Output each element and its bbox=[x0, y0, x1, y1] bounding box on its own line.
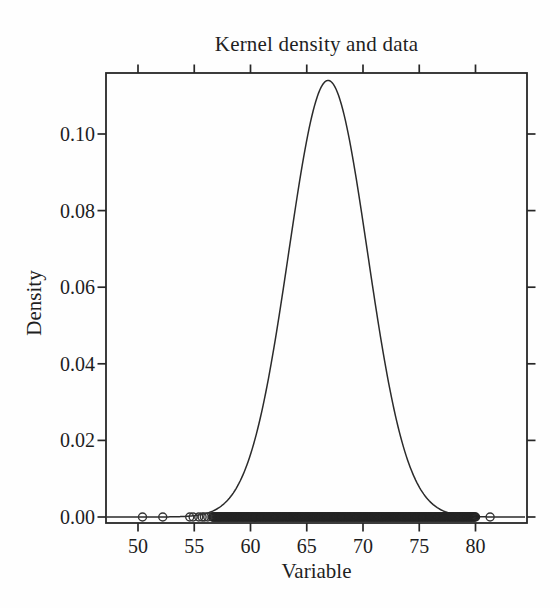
y-tick-label: 0.10 bbox=[60, 123, 95, 145]
y-tick-label: 0.00 bbox=[60, 506, 95, 528]
plot-frame bbox=[106, 73, 527, 523]
y-tick-label: 0.04 bbox=[60, 353, 95, 375]
x-tick-label: 70 bbox=[353, 535, 373, 557]
x-tick-label: 55 bbox=[184, 535, 204, 557]
x-tick-label: 60 bbox=[241, 535, 261, 557]
x-tick-label: 80 bbox=[466, 535, 486, 557]
y-tick-label: 0.06 bbox=[60, 276, 95, 298]
y-tick-label: 0.02 bbox=[60, 429, 95, 451]
x-axis-label: Variable bbox=[106, 559, 527, 584]
kernel-density-figure: Kernel density and data Density 50556065… bbox=[0, 0, 560, 608]
plot-area: 505560657075800.000.020.040.060.080.10 bbox=[0, 0, 560, 608]
x-tick-label: 50 bbox=[128, 535, 148, 557]
y-tick-label: 0.08 bbox=[60, 200, 95, 222]
x-tick-label: 65 bbox=[297, 535, 317, 557]
x-tick-label: 75 bbox=[409, 535, 429, 557]
density-curve bbox=[107, 80, 526, 517]
